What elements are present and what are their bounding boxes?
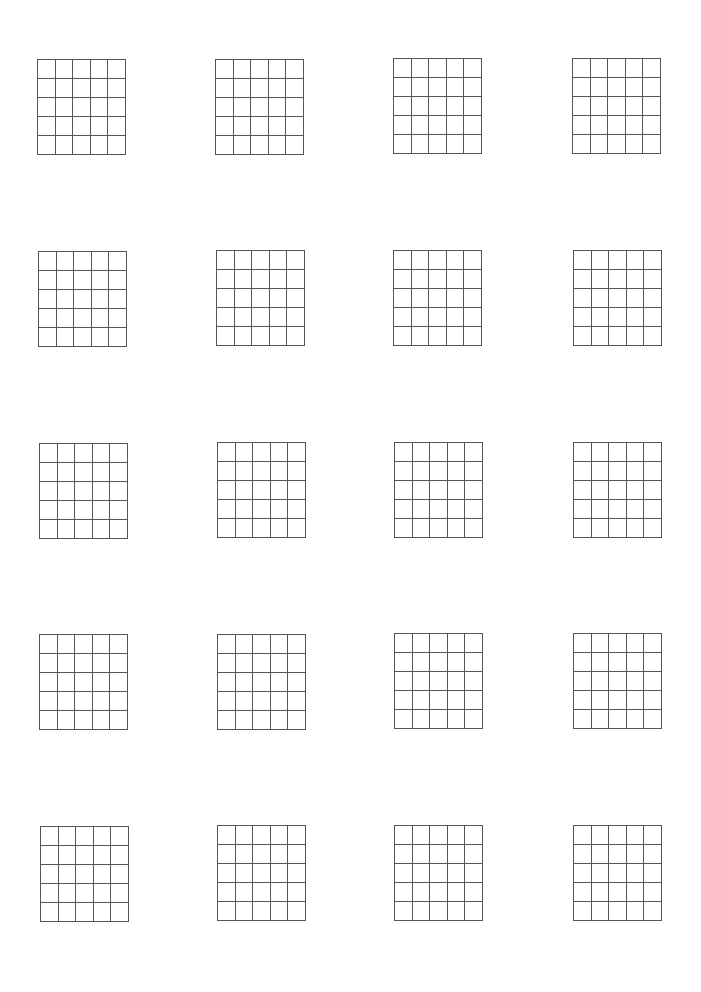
grid-cell [92, 252, 110, 271]
grid-cell [608, 135, 626, 154]
grid-cell [609, 634, 627, 653]
grid-cell [430, 826, 448, 845]
grid-cell [592, 653, 610, 672]
grid-cell [574, 462, 592, 481]
grid-cell [644, 270, 662, 289]
grid-cell [73, 136, 91, 155]
grid-cell [574, 327, 592, 346]
blank-grid-r5-c1 [40, 826, 129, 922]
grid-cell [394, 289, 412, 308]
grid-cell [110, 501, 128, 520]
grid-cell [394, 270, 412, 289]
grid-cell [40, 520, 58, 539]
grid-cell [447, 251, 465, 270]
grid-cell [236, 673, 254, 692]
grid-cell [430, 883, 448, 902]
grid-cell [627, 251, 645, 270]
grid-cell [429, 327, 447, 346]
blank-grid-r5-c3 [394, 825, 483, 921]
grid-cell [448, 902, 466, 921]
grid-cell [644, 826, 662, 845]
grid-cell [627, 500, 645, 519]
grid-cell [218, 500, 236, 519]
grid-cell [574, 289, 592, 308]
grid-cell [574, 500, 592, 519]
grid-cell [269, 79, 287, 98]
grid-cell [644, 308, 662, 327]
grid-cell [39, 271, 57, 290]
grid-cell [574, 308, 592, 327]
grid-cell [609, 327, 627, 346]
grid-cell [627, 270, 645, 289]
grid-cell [91, 136, 109, 155]
grid-cell [288, 500, 306, 519]
grid-cell [110, 711, 128, 730]
grid-cell [394, 251, 412, 270]
grid-cell [627, 883, 645, 902]
grid-cell [447, 78, 465, 97]
grid-cell [430, 691, 448, 710]
grid-cell [627, 710, 645, 729]
grid-cell [464, 116, 482, 135]
grid-cell [58, 501, 76, 520]
grid-cell [234, 136, 252, 155]
grid-cell [39, 328, 57, 347]
grid-cell [94, 865, 112, 884]
grid-cell [270, 327, 288, 346]
grid-cell [465, 864, 483, 883]
grid-cell [609, 251, 627, 270]
grid-cell [40, 654, 58, 673]
grid-cell [627, 443, 645, 462]
grid-cell [574, 251, 592, 270]
grid-cell [76, 846, 94, 865]
grid-cell [40, 692, 58, 711]
grid-cell [93, 654, 111, 673]
grid-cell [288, 462, 306, 481]
grid-cell [58, 673, 76, 692]
grid-cell [75, 654, 93, 673]
grid-cell [574, 691, 592, 710]
grid-cell [287, 251, 305, 270]
grid-cell [252, 327, 270, 346]
grid-cell [609, 270, 627, 289]
grid-cell [73, 79, 91, 98]
grid-cell [218, 519, 236, 538]
grid-cell [57, 271, 75, 290]
grid-cell [430, 500, 448, 519]
blank-grid-worksheet-page [0, 0, 701, 992]
grid-cell [252, 270, 270, 289]
grid-cell [447, 270, 465, 289]
grid-cell [217, 327, 235, 346]
grid-cell [56, 60, 74, 79]
grid-cell [271, 673, 289, 692]
grid-cell [394, 78, 412, 97]
grid-cell [110, 463, 128, 482]
grid-cell [447, 116, 465, 135]
grid-cell [41, 884, 59, 903]
grid-cell [288, 826, 306, 845]
grid-cell [288, 883, 306, 902]
grid-cell [236, 845, 254, 864]
grid-cell [464, 97, 482, 116]
grid-cell [592, 462, 610, 481]
grid-cell [413, 826, 431, 845]
grid-cell [253, 902, 271, 921]
grid-cell [573, 59, 591, 78]
grid-cell [271, 500, 289, 519]
grid-cell [111, 846, 129, 865]
grid-cell [465, 826, 483, 845]
grid-cell [234, 79, 252, 98]
grid-cell [269, 98, 287, 117]
blank-grid-r1-c1 [37, 59, 126, 155]
blank-grid-r2-c4 [573, 250, 662, 346]
grid-cell [236, 481, 254, 500]
grid-cell [644, 500, 662, 519]
grid-cell [627, 845, 645, 864]
blank-grid-r4-c2 [217, 634, 306, 730]
grid-cell [395, 864, 413, 883]
grid-cell [218, 443, 236, 462]
grid-cell [253, 826, 271, 845]
grid-cell [75, 501, 93, 520]
grid-cell [465, 653, 483, 672]
grid-cell [394, 327, 412, 346]
